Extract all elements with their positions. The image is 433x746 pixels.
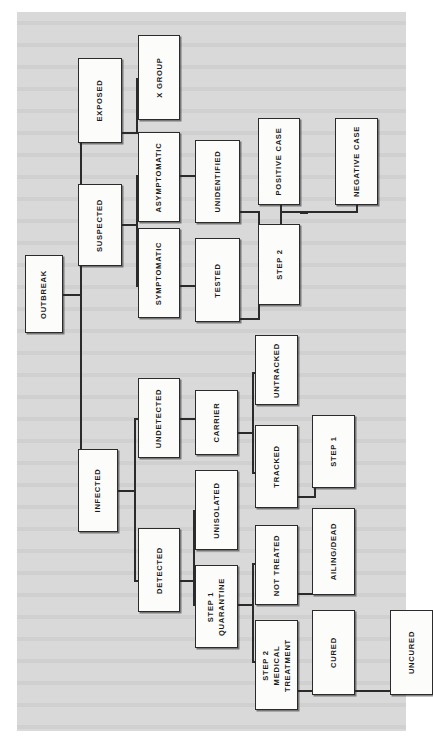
node-step-1-quarantine[interactable]: STEP 1QUARANTINE bbox=[195, 565, 238, 648]
node-step-2-medical-treatment-label: STEP 2 MEDICALTREATMENT bbox=[260, 638, 293, 691]
edge-outbreak-spine bbox=[80, 100, 82, 492]
node-step-2-medical-line2: TREATMENT bbox=[283, 638, 292, 691]
node-unisolated-label: UNISOLATED bbox=[211, 482, 222, 538]
node-detected[interactable]: DETECTED bbox=[138, 528, 180, 612]
node-not-treated-label: NOT TREATED bbox=[271, 534, 282, 596]
node-not-treated[interactable]: NOT TREATED bbox=[255, 525, 298, 605]
edge-unidentified-step2 bbox=[240, 211, 260, 213]
edge-step2-positive bbox=[280, 205, 282, 213]
edge-asymptomatic-unidentified bbox=[180, 175, 195, 177]
node-infected[interactable]: INFECTED bbox=[78, 449, 118, 532]
edge-infected-spine bbox=[134, 418, 136, 582]
node-unidentified[interactable]: UNIDENTIFIED bbox=[195, 140, 240, 223]
node-untracked[interactable]: UNTRACKED bbox=[255, 335, 298, 405]
node-outbreak-label: OUTBREAK bbox=[39, 269, 50, 318]
node-step-1-quarantine-line2: QUARANTINE bbox=[218, 577, 227, 635]
node-cured-label: CURED bbox=[328, 637, 339, 668]
node-step-2-medical-treatment[interactable]: STEP 2 MEDICALTREATMENT bbox=[255, 620, 298, 710]
edge-undetected-carrier bbox=[180, 418, 195, 420]
node-step-1-quarantine-line1: STEP 1 bbox=[207, 591, 216, 622]
node-ailing-dead-label: AILING/DEAD bbox=[328, 523, 339, 581]
node-symptomatic[interactable]: SYMPTOMATIC bbox=[138, 228, 180, 318]
node-cured[interactable]: CURED bbox=[312, 610, 355, 695]
node-suspected-label: SUSPECTED bbox=[95, 198, 106, 251]
node-tracked-label: TRACKED bbox=[271, 445, 282, 487]
node-step-1-tracking-label: STEP 1 bbox=[328, 436, 339, 467]
edge-symptomatic-tested bbox=[180, 285, 195, 287]
node-outbreak[interactable]: OUTBREAK bbox=[25, 255, 63, 333]
node-carrier-label: CARRIER bbox=[211, 403, 222, 443]
node-carrier[interactable]: CARRIER bbox=[195, 390, 238, 455]
node-step-2-testing[interactable]: STEP 2 bbox=[258, 224, 300, 305]
node-uncured-label: UNCURED bbox=[406, 631, 417, 674]
node-step-1-quarantine-label: STEP 1QUARANTINE bbox=[206, 577, 228, 635]
node-x-group[interactable]: X GROUP bbox=[138, 35, 180, 120]
edge-quarantine-spine bbox=[252, 563, 254, 663]
node-positive-case[interactable]: POSITIVE CASE bbox=[258, 118, 300, 205]
node-exposed-label: EXPOSED bbox=[95, 80, 106, 122]
node-asymptomatic[interactable]: ASYMPTOMATIC bbox=[138, 132, 180, 222]
node-symptomatic-label: SYMPTOMATIC bbox=[154, 241, 165, 305]
node-detected-label: DETECTED bbox=[154, 547, 165, 594]
node-untracked-label: UNTRACKED bbox=[271, 343, 282, 398]
flowchart: OUTBREAK EXPOSED SUSPECTED INFECTED X GR… bbox=[17, 12, 406, 731]
node-undetected-label: UNDETECTED bbox=[154, 388, 165, 447]
edge-step2-negative bbox=[356, 205, 358, 213]
edge-step2-split bbox=[280, 211, 358, 213]
node-suspected[interactable]: SUSPECTED bbox=[78, 184, 122, 266]
node-negative-case-label: NEGATIVE CASE bbox=[351, 126, 362, 197]
node-asymptomatic-label: ASYMPTOMATIC bbox=[154, 142, 165, 212]
node-infected-label: INFECTED bbox=[93, 469, 104, 513]
node-step-2-testing-label: STEP 2 bbox=[274, 249, 285, 280]
node-unisolated[interactable]: UNISOLATED bbox=[195, 470, 238, 550]
node-uncured[interactable]: UNCURED bbox=[390, 610, 433, 695]
node-ailing-dead[interactable]: AILING/DEAD bbox=[312, 508, 355, 595]
node-positive-case-label: POSITIVE CASE bbox=[274, 128, 285, 196]
edge-outbreak-stub bbox=[62, 294, 82, 296]
node-step-2-medical-line1: STEP 2 MEDICAL bbox=[261, 645, 281, 685]
node-unidentified-label: UNIDENTIFIED bbox=[212, 150, 223, 212]
node-step-1-tracking[interactable]: STEP 1 bbox=[312, 415, 355, 488]
node-tested-label: TESTED bbox=[212, 263, 223, 297]
node-tested[interactable]: TESTED bbox=[195, 238, 240, 322]
edge-tested-step2 bbox=[240, 318, 260, 320]
node-negative-case[interactable]: NEGATIVE CASE bbox=[335, 118, 378, 205]
node-exposed[interactable]: EXPOSED bbox=[78, 58, 122, 143]
node-x-group-label: X GROUP bbox=[154, 57, 165, 97]
node-tracked[interactable]: TRACKED bbox=[255, 425, 298, 508]
node-undetected[interactable]: UNDETECTED bbox=[138, 378, 180, 458]
edge-carrier-spine bbox=[252, 372, 254, 474]
